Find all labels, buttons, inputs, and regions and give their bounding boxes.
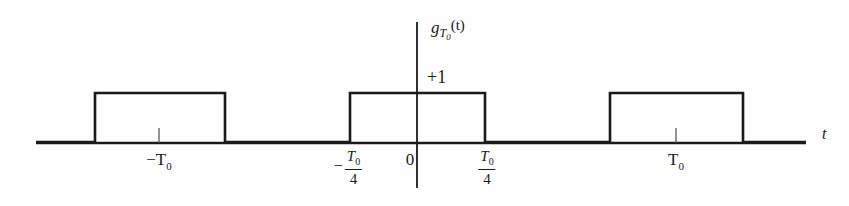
tick-label-pos-T0: T0 xyxy=(668,151,684,172)
numerator-subscript: 0 xyxy=(489,156,494,167)
tick-label-pos-T0-text: T xyxy=(668,150,678,169)
tick-label-pos-quarter: T0 4 xyxy=(478,148,495,187)
tick-label-neg-T0-subscript: 0 xyxy=(166,160,172,172)
pulse-train-waveform xyxy=(36,93,806,142)
tick-label-neg-quarter-sign: − xyxy=(334,158,343,176)
y-axis-label-argument: (t) xyxy=(451,17,465,33)
tick-label-pos-quarter-numerator: T0 xyxy=(478,148,495,169)
tick-label-origin: 0 xyxy=(406,151,415,168)
tick-label-neg-quarter-numerator: T0 xyxy=(345,148,362,169)
tick-label-neg-T0: −T0 xyxy=(146,151,171,172)
tick-label-pos-quarter-denominator: 4 xyxy=(483,170,491,187)
x-axis-label: t xyxy=(822,126,826,142)
pulse-train-figure: gT0(t) +1 t −T0 0 T0 − T0 4 T0 4 xyxy=(0,0,849,206)
plot-canvas xyxy=(0,0,849,206)
y-axis-function-label: gT0(t) xyxy=(431,18,465,42)
tick-label-neg-quarter: − T0 4 xyxy=(334,148,362,187)
tick-label-pos-T0-subscript: 0 xyxy=(678,160,684,172)
y-axis-label-subscript-minor: 0 xyxy=(446,32,451,42)
y-axis-label-base: g xyxy=(431,18,440,37)
tick-label-pos-quarter-fraction: T0 4 xyxy=(478,148,495,187)
tick-label-neg-quarter-denominator: 4 xyxy=(350,170,358,187)
tick-label-neg-quarter-fraction: T0 4 xyxy=(345,148,362,187)
tick-label-neg-T0-text: −T xyxy=(146,150,166,169)
amplitude-label: +1 xyxy=(427,68,446,86)
numerator-subscript: 0 xyxy=(355,156,360,167)
